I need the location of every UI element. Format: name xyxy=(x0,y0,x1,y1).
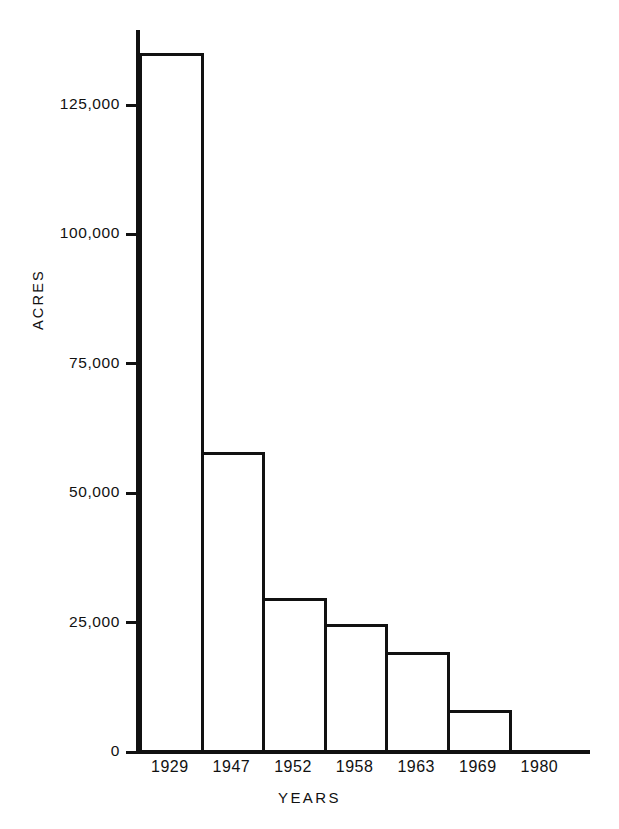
y-axis-tick-label: 0 xyxy=(111,742,120,760)
y-axis-tick-label: 50,000 xyxy=(69,483,120,501)
y-axis-tick-mark xyxy=(126,104,137,107)
bar-1969 xyxy=(447,710,512,752)
x-axis-tick-label-1980: 1980 xyxy=(499,758,579,776)
bar-chart-figure: 025,00050,00075,000100,000125,000 192919… xyxy=(0,0,619,829)
y-axis-tick-mark xyxy=(126,233,137,236)
y-axis-tick-label: 100,000 xyxy=(60,224,120,242)
bar-1952 xyxy=(262,598,327,752)
y-axis-tick-mark xyxy=(126,362,137,365)
y-axis-tick-mark xyxy=(126,492,137,495)
y-axis-tick-mark xyxy=(126,621,137,624)
bar-1963 xyxy=(385,652,450,752)
bar-1947 xyxy=(201,452,266,752)
x-axis-title: YEARS xyxy=(0,789,619,806)
bar-1929 xyxy=(139,53,204,752)
plot-area: 025,00050,00075,000100,000125,000 192919… xyxy=(0,0,619,829)
y-axis-title: ACRES xyxy=(30,269,46,330)
bar-1958 xyxy=(324,624,389,752)
y-axis-tick-label: 75,000 xyxy=(69,354,120,372)
y-axis-tick-label: 25,000 xyxy=(69,613,120,631)
y-axis-tick-label: 125,000 xyxy=(60,95,120,113)
y-axis-tick-mark xyxy=(126,751,137,754)
